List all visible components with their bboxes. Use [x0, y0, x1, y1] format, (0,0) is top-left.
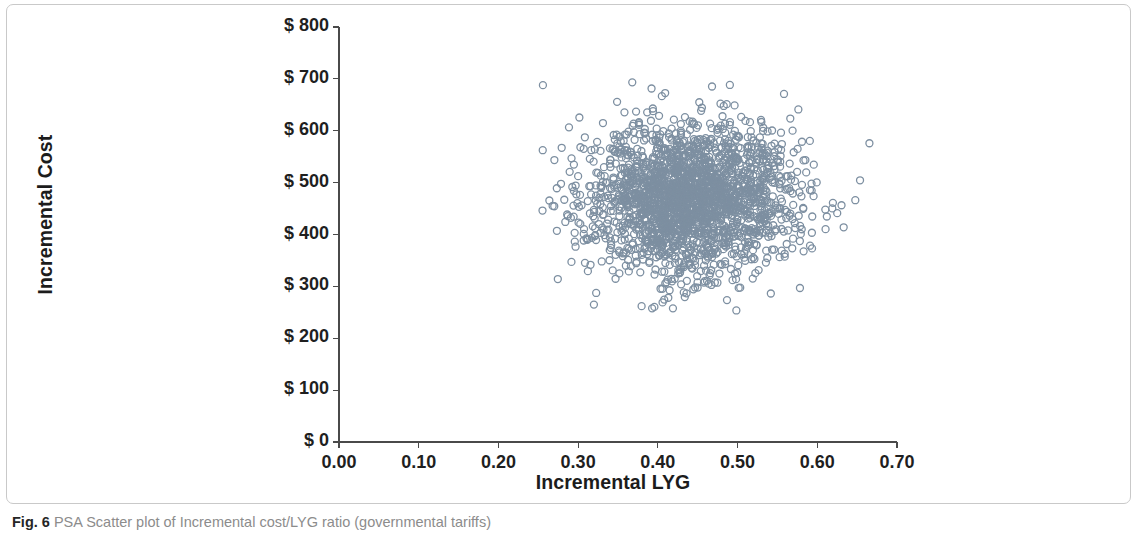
scatter-point	[677, 121, 684, 128]
x-axis-tick-label: 0.50	[693, 452, 783, 473]
scatter-point	[681, 114, 688, 121]
scatter-point	[726, 81, 733, 88]
scatter-point	[558, 144, 565, 151]
scatter-point	[809, 213, 816, 220]
scatter-point	[648, 85, 655, 92]
scatter-point	[734, 269, 741, 276]
scatter-point	[566, 168, 573, 175]
scatter-point	[621, 109, 628, 116]
scatter-point	[554, 276, 561, 283]
scatter-point	[767, 290, 774, 297]
scatter-point	[822, 226, 829, 233]
scatter-point	[581, 134, 588, 141]
scatter-point	[769, 127, 776, 134]
scatter-point	[575, 173, 582, 180]
x-axis-tick-label: 0.60	[772, 452, 862, 473]
scatter-point	[571, 238, 578, 245]
scatter-point	[665, 294, 672, 301]
scatter-point	[803, 169, 810, 176]
scatter-point	[666, 287, 673, 294]
scatter-point	[866, 140, 873, 147]
scatter-point	[612, 275, 619, 282]
scatter-point	[719, 113, 726, 120]
scatter-point	[594, 138, 601, 145]
scatter-point	[716, 270, 723, 277]
y-axis-tick-label: $ 300	[187, 274, 329, 295]
scatter-point	[539, 207, 546, 214]
scatter-point	[707, 120, 714, 127]
figure-caption-text: PSA Scatter plot of Incremental cost/LYG…	[54, 514, 491, 530]
figure-panel: $ 0$ 100$ 200$ 300$ 400$ 500$ 600$ 700$ …	[6, 4, 1131, 504]
scatter-point	[796, 285, 803, 292]
scatter-point	[584, 268, 591, 275]
scatter-point	[637, 269, 644, 276]
scatter-point	[798, 181, 805, 188]
y-axis-tick-label: $ 600	[187, 119, 329, 140]
scatter-point	[568, 155, 575, 162]
x-axis-tick-label: 0.20	[453, 452, 543, 473]
y-axis-tick-label: $ 200	[187, 326, 329, 347]
scatter-point	[656, 112, 663, 119]
scatter-point	[539, 82, 546, 89]
scatter-point	[834, 210, 841, 217]
scatter-point	[840, 224, 847, 231]
scatter-point	[738, 113, 745, 120]
scatter-point	[581, 226, 588, 233]
scatter-point	[857, 177, 864, 184]
scatter-point	[590, 301, 597, 308]
scatter-point	[670, 116, 677, 123]
scatter-point	[742, 117, 749, 124]
scatter-point	[796, 238, 803, 245]
scatter-point	[822, 206, 829, 213]
scatter-point	[553, 185, 560, 192]
plot-canvas	[7, 5, 1131, 503]
figure-caption-label: Fig. 6	[12, 514, 50, 530]
x-axis-title: Incremental LYG	[333, 471, 893, 494]
scatter-point	[709, 83, 716, 90]
scatter-point	[614, 98, 621, 105]
scatter-point	[551, 157, 558, 164]
scatter-point	[723, 297, 730, 304]
x-axis-tick-label: 0.30	[533, 452, 623, 473]
scatter-point	[561, 196, 568, 203]
scatter-point	[629, 79, 636, 86]
scatter-point	[823, 213, 830, 220]
scatter-point	[565, 124, 572, 131]
scatter-point	[778, 216, 785, 223]
scatter-point	[733, 307, 740, 314]
scatter-point	[784, 227, 791, 234]
scatter-point	[651, 271, 658, 278]
y-axis-tick-label: $ 400	[187, 223, 329, 244]
scatter-point	[662, 260, 669, 267]
scatter-point	[777, 129, 784, 136]
scatter-point	[584, 198, 591, 205]
figure-root: $ 0$ 100$ 200$ 300$ 400$ 500$ 600$ 700$ …	[0, 0, 1137, 546]
scatter-point	[599, 120, 606, 127]
scatter-point	[558, 180, 565, 187]
scatter-point	[653, 125, 660, 132]
scatter-point	[790, 201, 797, 208]
scatter-point	[669, 305, 676, 312]
scatter-point	[633, 108, 640, 115]
scatter-point	[641, 137, 648, 144]
scatter-point	[606, 257, 613, 264]
scatter-point	[783, 241, 790, 248]
y-axis-tick-label: $ 500	[187, 171, 329, 192]
scatter-point	[647, 117, 654, 124]
scatter-point	[838, 202, 845, 209]
scatter-point	[690, 286, 697, 293]
scatter-point	[852, 197, 859, 204]
scatter-point	[593, 289, 600, 296]
scatter-point	[553, 227, 560, 234]
scatter-chart: $ 0$ 100$ 200$ 300$ 400$ 500$ 600$ 700$ …	[7, 5, 1131, 503]
scatter-point	[786, 160, 793, 167]
scatter-point	[762, 259, 769, 266]
scatter-point	[598, 258, 605, 265]
scatter-point	[806, 137, 813, 144]
scatter-point	[539, 147, 546, 154]
scatter-point	[800, 248, 807, 255]
y-axis-tick-label: $ 0	[187, 430, 329, 451]
scatter-point	[789, 127, 796, 134]
scatter-point	[810, 161, 817, 168]
y-axis-title: Incremental Cost	[34, 115, 57, 315]
